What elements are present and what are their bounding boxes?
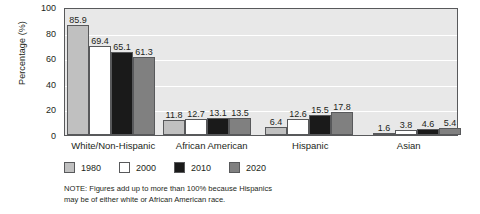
bar-1980-asian[interactable]: 1.6 (373, 133, 395, 135)
x-axis-label-white-non-hispanic: White/Non-Hispanic (64, 140, 163, 151)
bar-value-label: 85.9 (69, 16, 87, 25)
chart-note-line-2: may be of either white or African Americ… (64, 195, 394, 206)
bar-2020-white-non-hispanic[interactable]: 61.3 (133, 57, 155, 135)
legend-swatch-1980 (64, 162, 75, 173)
bar-1980-hispanic[interactable]: 6.4 (265, 127, 287, 135)
chart-note-line-1: NOTE: Figures add up to more than 100% b… (64, 184, 394, 195)
bar-2010-white-non-hispanic[interactable]: 65.1 (111, 52, 133, 135)
bar-2010-hispanic[interactable]: 15.5 (309, 115, 331, 135)
bar-value-label: 5.4 (444, 119, 457, 128)
y-axis-tick-40: 40 (46, 80, 56, 89)
bar-2010-african-american[interactable]: 13.1 (207, 118, 229, 135)
x-axis-label-african-american: African American (163, 140, 262, 151)
legend-swatch-2020 (229, 162, 240, 173)
bar-2010-asian[interactable]: 4.6 (417, 129, 439, 135)
legend-label-2020: 2020 (246, 163, 266, 173)
legend-item-2000[interactable]: 2000 (119, 162, 156, 173)
bar-2020-hispanic[interactable]: 17.8 (331, 112, 353, 135)
bar-1980-white-non-hispanic[interactable]: 85.9 (67, 25, 89, 135)
bar-value-label: 17.8 (333, 103, 351, 112)
x-axis-label-asian: Asian (360, 140, 459, 151)
chart-note: NOTE: Figures add up to more than 100% b… (64, 184, 394, 205)
bar-value-label: 11.8 (166, 111, 183, 120)
bar-value-label: 13.1 (209, 109, 227, 118)
y-axis-tick-100: 100 (41, 4, 56, 13)
legend-label-1980: 1980 (81, 163, 101, 173)
legend-swatch-2000 (119, 162, 130, 173)
legend-label-2000: 2000 (136, 163, 156, 173)
x-axis-label-hispanic: Hispanic (261, 140, 360, 151)
bar-value-label: 65.1 (113, 43, 131, 52)
bar-group-white-non-hispanic: 85.969.465.161.3 (65, 9, 155, 135)
bar-value-label: 6.4 (270, 118, 283, 127)
legend-item-2010[interactable]: 2010 (174, 162, 211, 173)
bar-value-label: 69.4 (91, 37, 109, 46)
bar-2020-asian[interactable]: 5.4 (439, 128, 461, 135)
bar-2000-african-american[interactable]: 12.7 (185, 119, 207, 135)
bar-1980-african-american[interactable]: 11.8 (163, 120, 185, 135)
x-axis-category-labels: White/Non-HispanicAfrican AmericanHispan… (64, 140, 458, 151)
bar-2020-african-american[interactable]: 13.5 (229, 118, 251, 135)
y-axis-tick-labels: 020406080100 (26, 8, 60, 136)
bar-chart-figure: Percentage (%) 020406080100 85.969.465.1… (0, 0, 480, 214)
plot-area: 85.969.465.161.311.812.713.113.56.412.61… (64, 8, 458, 136)
bar-value-label: 61.3 (135, 48, 153, 57)
bar-value-label: 12.7 (187, 110, 205, 119)
bar-2000-asian[interactable]: 3.8 (395, 130, 417, 135)
bar-value-label: 3.8 (400, 121, 413, 130)
y-axis-tick-0: 0 (51, 132, 56, 141)
bar-group-hispanic: 6.412.615.517.8 (251, 9, 353, 135)
legend-swatch-2010 (174, 162, 185, 173)
bar-group-african-american: 11.812.713.113.5 (155, 9, 251, 135)
legend-label-2010: 2010 (191, 163, 211, 173)
bar-value-label: 4.6 (422, 120, 435, 129)
legend-item-1980[interactable]: 1980 (64, 162, 101, 173)
bar-value-label: 13.5 (231, 109, 249, 118)
bar-2000-hispanic[interactable]: 12.6 (287, 119, 309, 135)
y-axis-tick-80: 80 (46, 29, 56, 38)
y-axis-tick-60: 60 (46, 55, 56, 64)
legend-item-2020[interactable]: 2020 (229, 162, 266, 173)
chart-legend: 1980200020102020 (64, 162, 284, 173)
bar-2000-white-non-hispanic[interactable]: 69.4 (89, 46, 111, 135)
bar-group-asian: 1.63.84.65.4 (353, 9, 461, 135)
bar-groups: 85.969.465.161.311.812.713.113.56.412.61… (65, 9, 457, 135)
y-axis-tick-20: 20 (46, 106, 56, 115)
bar-value-label: 1.6 (378, 124, 391, 133)
bar-value-label: 15.5 (311, 106, 329, 115)
bar-value-label: 12.6 (289, 110, 307, 119)
